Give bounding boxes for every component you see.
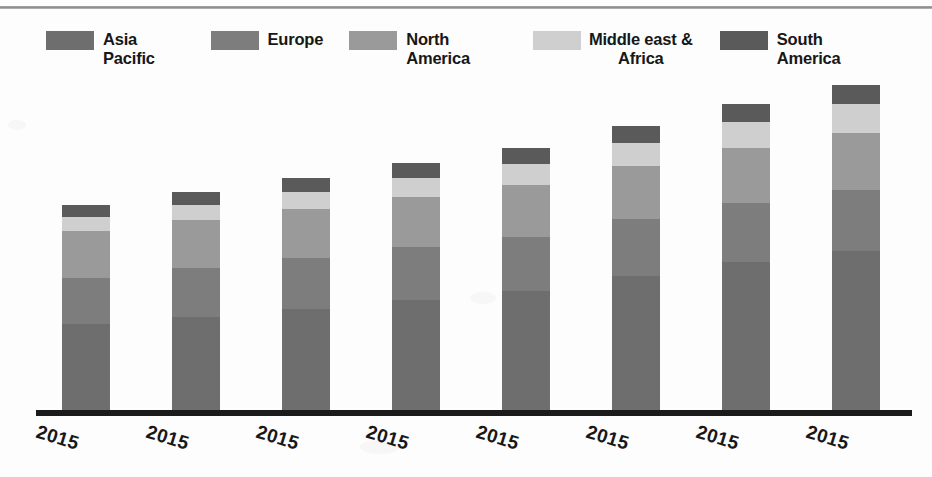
bar-segment[interactable]	[832, 104, 880, 133]
bar-segment[interactable]	[62, 217, 110, 231]
bar-segment[interactable]	[502, 148, 550, 164]
bar-segment[interactable]	[172, 268, 220, 317]
bar-segment[interactable]	[172, 205, 220, 220]
bar-segment[interactable]	[612, 126, 660, 143]
bar-segment[interactable]	[392, 178, 440, 197]
bar-segment[interactable]	[612, 166, 660, 219]
bar-segment[interactable]	[502, 291, 550, 413]
bar-segment[interactable]	[172, 220, 220, 268]
plot-area	[0, 0, 932, 477]
bar-column[interactable]	[612, 126, 660, 413]
bar-column[interactable]	[172, 192, 220, 413]
bar-segment[interactable]	[282, 209, 330, 258]
bar-segment[interactable]	[62, 205, 110, 217]
bar-segment[interactable]	[502, 164, 550, 185]
bar-segment[interactable]	[502, 237, 550, 292]
bar-column[interactable]	[392, 163, 440, 413]
bar-segment[interactable]	[392, 300, 440, 413]
bar-segment[interactable]	[392, 247, 440, 300]
bar-segment[interactable]	[612, 276, 660, 413]
bar-segment[interactable]	[282, 258, 330, 309]
bar-segment[interactable]	[832, 85, 880, 104]
bar-segment[interactable]	[62, 324, 110, 413]
bar-column[interactable]	[62, 205, 110, 413]
bar-column[interactable]	[502, 148, 550, 413]
bar-column[interactable]	[282, 178, 330, 413]
bar-column[interactable]	[832, 85, 880, 413]
bar-segment[interactable]	[62, 231, 110, 278]
bar-segment[interactable]	[612, 143, 660, 167]
bar-segment[interactable]	[502, 185, 550, 237]
chart-page: Asia PacificEuropeNorth AmericaMiddle ea…	[0, 0, 932, 477]
bar-segment[interactable]	[172, 317, 220, 413]
bar-segment[interactable]	[722, 203, 770, 262]
bar-segment[interactable]	[722, 148, 770, 203]
bar-segment[interactable]	[62, 278, 110, 324]
bar-segment[interactable]	[392, 197, 440, 247]
bar-segment[interactable]	[722, 122, 770, 148]
bar-segment[interactable]	[172, 192, 220, 205]
bar-segment[interactable]	[612, 219, 660, 276]
bar-segment[interactable]	[832, 251, 880, 413]
bar-segment[interactable]	[722, 104, 770, 122]
bar-column[interactable]	[722, 104, 770, 413]
bar-segment[interactable]	[832, 190, 880, 251]
bar-segment[interactable]	[282, 192, 330, 209]
bar-segment[interactable]	[832, 133, 880, 190]
bar-segment[interactable]	[392, 163, 440, 178]
bar-segment[interactable]	[722, 262, 770, 413]
bar-segment[interactable]	[282, 178, 330, 192]
x-axis-line	[36, 410, 912, 416]
bar-segment[interactable]	[282, 309, 330, 413]
